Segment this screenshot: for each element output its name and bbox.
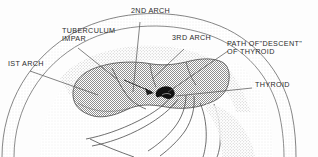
label-third-arch: 3RD ARCH [172,34,211,42]
label-path-of-descent-of-thyroid: PATH OF"DESCENT" OF THYROID [227,40,302,57]
thyroid-descent-diagram [0,0,318,157]
label-thyroid: THYROID [255,81,290,89]
label-second-arch: 2ND ARCH [131,7,170,15]
label-first-arch: IST ARCH [8,60,44,68]
label-tuberculum-impar: TUBERCULUM IMPAR [62,27,115,44]
